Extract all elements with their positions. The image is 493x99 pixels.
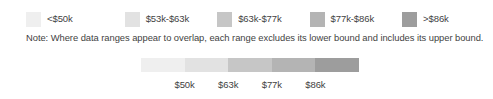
color-scale: $50k $63k $77k $86k (141, 58, 359, 94)
legend-swatch-icon-1 (125, 12, 140, 27)
color-scale-bar (141, 58, 359, 72)
legend-item-0[interactable]: <$50k (26, 11, 73, 27)
tick-label-1: $63k (218, 78, 238, 92)
legend-item-2[interactable]: $63k-$77k (217, 11, 281, 27)
color-scale-segment-3 (272, 58, 316, 72)
tick-label-2: $77k (262, 78, 282, 92)
legend-item-label-3: $77k-$86k (331, 11, 374, 27)
legend-item-1[interactable]: $53k-$63k (125, 11, 189, 27)
tick-label-0: $50k (174, 78, 194, 92)
note-text: Note: Where data ranges appear to overla… (26, 31, 483, 44)
legend-swatch-icon-4 (402, 12, 417, 27)
color-scale-segment-4 (315, 58, 359, 72)
tick-label-3: $86k (305, 78, 325, 92)
legend-swatch-icon-2 (217, 12, 232, 27)
color-scale-segment-2 (228, 58, 272, 72)
legend-item-3[interactable]: $77k-$86k (310, 11, 374, 27)
legend-item-label-4: >$86k (423, 11, 449, 27)
legend-item-label-1: $53k-$63k (146, 11, 189, 27)
legend-swatch-icon-3 (310, 12, 325, 27)
legend-item-4[interactable]: >$86k (402, 11, 449, 27)
legend-swatch-icon-0 (26, 12, 41, 27)
legend-item-label-2: $63k-$77k (238, 11, 281, 27)
color-scale-segment-0 (141, 58, 185, 72)
color-scale-segment-1 (185, 58, 229, 72)
legend: <$50k $53k-$63k $63k-$77k $77k-$86k >$86… (26, 11, 449, 27)
legend-item-label-0: <$50k (47, 11, 73, 27)
color-scale-ticks: $50k $63k $77k $86k (141, 78, 359, 94)
